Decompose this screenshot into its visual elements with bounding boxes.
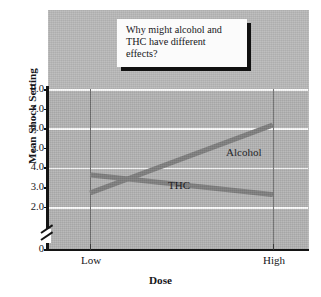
callout-box: Why might alcohol and THC have different… [117, 19, 247, 67]
y-tick-mark-2 [44, 207, 48, 209]
y-tick-label-0: 0 [18, 244, 44, 255]
x-tick-label-low: Low [61, 254, 121, 266]
y-tick-mark-6 [44, 128, 48, 130]
y-tick-mark-8 [44, 89, 48, 91]
y-tick-label-2: 2.0 [18, 202, 44, 213]
gridline-y-2 [49, 207, 308, 209]
y-tick-mark-7 [44, 109, 48, 111]
y-tick-mark-5 [44, 148, 48, 150]
x-axis-title: Dose [0, 274, 321, 286]
y-axis-title: Mean Shock Setting [26, 36, 38, 196]
question-callout: Why might alcohol and THC have different… [117, 19, 247, 67]
y-tick-mark-4 [44, 167, 48, 169]
gridline-x-high [273, 89, 274, 250]
x-tick-label-high: High [244, 254, 304, 266]
x-tick-mark-low [90, 244, 91, 250]
y-tick-mark-3 [44, 187, 48, 189]
series-label-alcohol: Alcohol [226, 146, 261, 158]
plot-area: Alcohol THC [49, 89, 308, 250]
x-tick-mark-high [273, 244, 274, 250]
gridline-x-low [90, 89, 91, 250]
series-label-thc: THC [168, 179, 190, 191]
gridline-y-4 [49, 168, 308, 170]
y-tick-mark-0 [44, 249, 48, 251]
gridline-y-8 [49, 89, 308, 91]
x-axis-line [46, 249, 309, 251]
chart-figure: Why might alcohol and THC have different… [0, 0, 321, 297]
callout-text: Why might alcohol and THC have different… [126, 24, 240, 61]
